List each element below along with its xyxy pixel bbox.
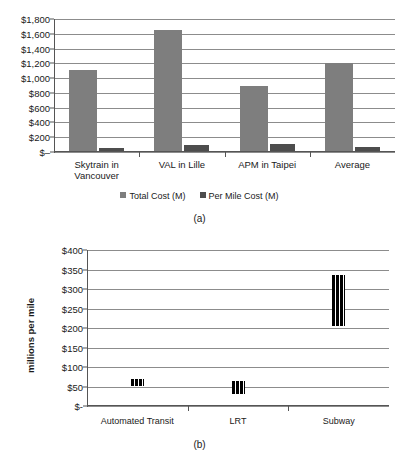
- y-axis-tickmark: [83, 406, 87, 407]
- y-axis-tickmark: [83, 250, 87, 251]
- gridline: [54, 34, 395, 35]
- x-axis-category-label: Average: [310, 159, 395, 170]
- y-axis-tick-label: $1,200: [2, 58, 50, 69]
- gridline: [87, 328, 389, 329]
- x-axis-line-b: [87, 405, 389, 406]
- gridline: [87, 367, 389, 368]
- y-axis-tickmark: [83, 328, 87, 329]
- bar-total-cost: [325, 63, 353, 152]
- y-axis-tickmark: [83, 386, 87, 387]
- bar-total-cost: [154, 30, 182, 152]
- x-axis-separator: [139, 152, 140, 157]
- y-axis-tick-label: $1,800: [2, 14, 50, 25]
- range-marker: [131, 379, 144, 387]
- y-axis-tickmark: [50, 48, 54, 49]
- y-axis-tickmark: [50, 78, 54, 79]
- y-axis-tickmark: [83, 269, 87, 270]
- y-axis-tickmark: [83, 308, 87, 309]
- gridline: [87, 348, 389, 349]
- gridline: [87, 250, 389, 251]
- y-axis-tickmark: [83, 347, 87, 348]
- range-marker: [332, 275, 345, 327]
- y-axis-tickmark: [50, 63, 54, 64]
- plot-area-a: [54, 19, 395, 152]
- y-axis-tick-label: $–: [2, 147, 50, 158]
- y-axis-tickmark: [50, 122, 54, 123]
- y-axis-tickmark: [83, 367, 87, 368]
- gridline: [87, 406, 389, 407]
- caption-a: (a): [0, 213, 399, 224]
- legend-item: Per Mile Cost (M): [200, 190, 279, 201]
- x-axis-category-label: LRT: [188, 416, 289, 427]
- y-axis-tick-label: $800: [2, 87, 50, 98]
- legend-label: Total Cost (M): [129, 191, 185, 201]
- legend-swatch-total-cost: [120, 192, 126, 198]
- legend-a: Total Cost (M)Per Mile Cost (M): [0, 190, 399, 201]
- range-marker: [232, 381, 245, 394]
- y-axis-tick-label: $300: [37, 284, 83, 295]
- y-axis-tickmark: [50, 92, 54, 93]
- y-axis-tickmark: [50, 152, 54, 153]
- legend-label: Per Mile Cost (M): [209, 191, 279, 201]
- x-axis-separator: [288, 406, 289, 411]
- y-axis-tick-label: $200: [2, 132, 50, 143]
- y-axis-tick-label: $1,400: [2, 43, 50, 54]
- y-axis-tickmark: [50, 107, 54, 108]
- y-axis-tickmark: [50, 19, 54, 20]
- x-axis-category-label: Skytrain in Vancouver: [54, 159, 139, 181]
- gridline: [87, 270, 389, 271]
- plot-area-b: [87, 250, 389, 406]
- legend-swatch-per-mile-cost: [200, 192, 206, 198]
- caption-b: (b): [0, 439, 399, 450]
- y-axis-tick-label: $250: [37, 303, 83, 314]
- y-axis-tick-label: $600: [2, 102, 50, 113]
- y-axis-tick-label: $100: [37, 362, 83, 373]
- y-axis-tick-label: $150: [37, 342, 83, 353]
- y-axis-tick-label: $350: [37, 264, 83, 275]
- gridline: [54, 19, 395, 20]
- chart-panel-b: millions per mile $400$350$300$250$200$1…: [0, 235, 399, 471]
- x-axis-separator: [188, 406, 189, 411]
- y-axis-tick-label: $400: [2, 117, 50, 128]
- x-axis-separator: [310, 152, 311, 157]
- x-axis-separator: [225, 152, 226, 157]
- y-axis-title-b: millions per mile: [25, 286, 36, 386]
- x-axis-category-label: VAL in Lille: [139, 159, 224, 170]
- legend-item: Total Cost (M): [120, 190, 185, 201]
- y-axis-tick-label: $1,000: [2, 73, 50, 84]
- y-axis-tickmark: [50, 137, 54, 138]
- x-axis-category-label: Automated Transit: [87, 416, 188, 427]
- y-axis-line-a: [54, 19, 55, 153]
- y-axis-tickmark: [50, 33, 54, 34]
- y-axis-tick-label: $50: [37, 381, 83, 392]
- y-axis-tick-label: $1,600: [2, 28, 50, 39]
- y-axis-line-b: [87, 250, 88, 407]
- y-axis-tick-label: $200: [37, 323, 83, 334]
- y-axis-tick-label: $-: [37, 401, 83, 412]
- bar-total-cost: [240, 86, 268, 153]
- x-axis-category-label: APM in Taipei: [225, 159, 310, 170]
- x-axis-category-label: Subway: [288, 416, 389, 427]
- y-axis-tick-label: $400: [37, 245, 83, 256]
- chart-panel-a: $1,800$1,600$1,400$1,200$1,000$800$600$4…: [0, 0, 399, 235]
- y-axis-tickmark: [83, 289, 87, 290]
- gridline: [54, 49, 395, 50]
- bar-total-cost: [69, 70, 97, 152]
